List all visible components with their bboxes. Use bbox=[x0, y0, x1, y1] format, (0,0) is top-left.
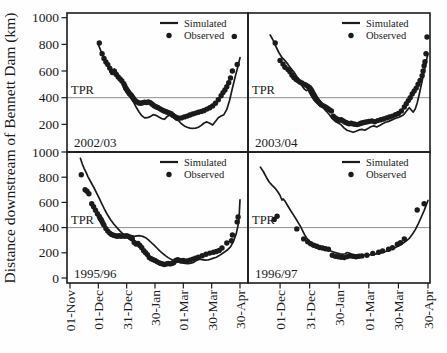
year-label: 2002/03 bbox=[74, 135, 117, 150]
four-panel-line-chart: Distance downstream of Bennett Dam (km)1… bbox=[0, 0, 447, 353]
observed-point bbox=[274, 214, 279, 219]
panel-2003-04: TPR2003/04SimulatedObserved bbox=[248, 13, 430, 152]
observed-point bbox=[420, 68, 425, 73]
y-axis-tick-label-top: 400 bbox=[39, 90, 60, 105]
legend-simulated-label: Simulated bbox=[184, 157, 227, 168]
panel-1995-96: TPR1995/96SimulatedObserved bbox=[67, 152, 248, 283]
panel-1996-97: TPR1996/97SimulatedObserved bbox=[248, 152, 430, 283]
legend-simulated-label: Simulated bbox=[184, 18, 227, 29]
observed-point bbox=[228, 75, 233, 80]
y-axis-tick-label-bottom: 800 bbox=[39, 170, 60, 185]
x-axis-tick-label: 31-Dec bbox=[120, 290, 135, 330]
observed-point bbox=[79, 172, 84, 177]
observed-point bbox=[398, 240, 403, 245]
legend-simulated-label: Simulated bbox=[366, 157, 409, 168]
y-axis-tick-label-top: 1000 bbox=[32, 10, 59, 25]
observed-points bbox=[79, 172, 241, 267]
observed-point bbox=[359, 253, 364, 258]
tpr-label: TPR bbox=[71, 213, 95, 227]
x-axis-tick-label: 31-Dec bbox=[303, 290, 318, 330]
observed-points bbox=[273, 34, 430, 127]
legend-observed-dot-sample bbox=[348, 33, 353, 38]
panel-2002-03: TPR2002/03SimulatedObserved bbox=[67, 13, 248, 152]
streamflow-simulation-figure: Distance downstream of Bennett Dam (km)1… bbox=[0, 0, 447, 353]
x-axis-tick-label: 30-Apr bbox=[233, 290, 248, 329]
observed-point bbox=[364, 253, 369, 258]
simulated-line bbox=[98, 44, 240, 128]
observed-point bbox=[424, 34, 429, 39]
observed-point bbox=[419, 73, 424, 78]
y-axis-tick-label-top: 800 bbox=[39, 37, 60, 52]
observed-point bbox=[329, 108, 334, 113]
observed-point bbox=[380, 248, 385, 253]
observed-point bbox=[294, 226, 299, 231]
y-axis-tick-label-bottom: 1000 bbox=[32, 145, 59, 160]
x-axis-tick-label: 01-Dec bbox=[91, 290, 106, 330]
legend-observed-dot-sample bbox=[166, 33, 171, 38]
tpr-label: TPR bbox=[252, 83, 276, 97]
observed-point bbox=[415, 207, 420, 212]
observed-points bbox=[97, 34, 240, 121]
observed-point bbox=[219, 245, 224, 250]
observed-point bbox=[402, 236, 407, 241]
tpr-label: TPR bbox=[71, 83, 95, 97]
observed-point bbox=[230, 232, 235, 237]
y-axis-tick-label-bottom: 0 bbox=[52, 271, 59, 286]
year-label: 1996/97 bbox=[255, 266, 298, 281]
x-axis-tick-label: 01-Mar bbox=[362, 290, 377, 331]
tpr-label: TPR bbox=[252, 213, 276, 227]
legend-observed-label: Observed bbox=[184, 169, 225, 180]
observed-point bbox=[422, 59, 427, 64]
observed-point bbox=[226, 80, 231, 85]
legend-observed-label: Observed bbox=[184, 30, 225, 41]
x-axis-tick-label: 30-Jan bbox=[332, 290, 347, 326]
y-axis-tick-label-bottom: 200 bbox=[39, 245, 60, 260]
legend-observed-dot-sample bbox=[348, 172, 353, 177]
legend-simulated-label: Simulated bbox=[366, 18, 409, 29]
y-axis-tick-label-bottom: 600 bbox=[39, 195, 60, 210]
observed-point bbox=[326, 247, 331, 252]
observed-point bbox=[86, 191, 91, 196]
observed-point bbox=[97, 40, 102, 45]
observed-point bbox=[370, 251, 375, 256]
legend-observed-label: Observed bbox=[366, 30, 407, 41]
observed-points bbox=[272, 201, 427, 260]
observed-point bbox=[423, 51, 428, 56]
x-axis-tick-label: 30-Mar bbox=[391, 290, 406, 331]
observed-point bbox=[230, 68, 235, 73]
observed-point bbox=[417, 78, 422, 83]
observed-point bbox=[229, 238, 234, 243]
observed-point bbox=[390, 245, 395, 250]
legend-observed-dot-sample bbox=[166, 172, 171, 177]
y-axis-tick-label-top: 200 bbox=[39, 117, 60, 132]
x-axis-tick-label: 30-Mar bbox=[205, 290, 220, 331]
x-axis-tick-label: 01-Dec bbox=[273, 290, 288, 330]
observed-point bbox=[235, 219, 240, 224]
observed-point bbox=[224, 240, 229, 245]
x-axis-tick-label: 30-Jan bbox=[148, 290, 163, 326]
year-label: 1995/96 bbox=[74, 266, 117, 281]
observed-point bbox=[273, 40, 278, 45]
observed-point bbox=[235, 214, 240, 219]
y-axis-tick-label-top: 600 bbox=[39, 64, 60, 79]
observed-point bbox=[99, 51, 104, 56]
x-axis-tick-label: 01-Mar bbox=[176, 290, 191, 331]
y-axis-label: Distance downstream of Bennett Dam (km) bbox=[1, 13, 19, 284]
year-label: 2003/04 bbox=[255, 135, 298, 150]
observed-point bbox=[235, 62, 240, 67]
x-axis-tick-label: 01-Nov bbox=[63, 290, 78, 331]
legend-observed-label: Observed bbox=[366, 169, 407, 180]
simulated-line bbox=[270, 35, 428, 132]
x-axis-tick-label: 30-Apr bbox=[421, 290, 436, 329]
observed-point bbox=[421, 201, 426, 206]
y-axis-tick-label-bottom: 400 bbox=[39, 220, 60, 235]
observed-point bbox=[232, 34, 237, 39]
